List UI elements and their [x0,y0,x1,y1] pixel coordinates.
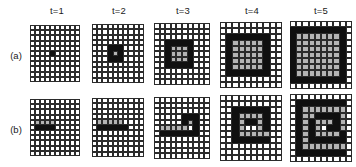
lattice-cell [204,79,210,85]
panel-b-t3 [154,97,210,159]
lattice-cell [139,78,144,83]
column-header-t2: t=2 [90,4,148,18]
lattice-cell [139,152,144,157]
lattice-cell [346,156,352,162]
column-header-t4: t=4 [218,4,286,18]
lattice-grid [92,24,144,83]
panel-b-t1 [30,99,80,156]
row-label-a: (a) [4,50,28,62]
panel-a-t4 [220,22,282,88]
panel-b-t5 [290,94,352,162]
column-header-row: t=1 t=2 t=3 t=4 t=5 [0,4,356,20]
lattice-grid [30,99,80,156]
column-header-t5: t=5 [288,4,354,18]
row-label-b: (b) [4,124,28,136]
lattice-cell [75,77,80,82]
panel-b-t2 [92,98,144,157]
lattice-grid [92,98,144,157]
lattice-grid [154,97,210,159]
lattice-cell [346,83,352,89]
panel-a-t1 [30,25,80,82]
lattice-grid [220,22,282,88]
panel-b-t4 [220,95,282,161]
lattice-grid [154,23,210,85]
panel-a-t5 [290,21,352,89]
panel-a-t2 [92,24,144,83]
lattice-grid [290,21,352,89]
lattice-cell [75,151,80,156]
figure-container: t=1 t=2 t=3 t=4 t=5 (a) (b) [0,0,356,167]
lattice-grid [30,25,80,82]
panel-a-t3 [154,23,210,85]
column-header-t3: t=3 [152,4,214,18]
lattice-cell [276,82,282,88]
column-header-t1: t=1 [28,4,86,18]
lattice-grid [290,94,352,162]
lattice-grid [220,95,282,161]
lattice-cell [204,153,210,159]
lattice-cell [276,155,282,161]
